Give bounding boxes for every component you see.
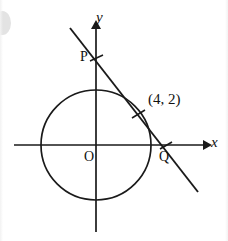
x-axis-label: x xyxy=(211,135,218,150)
point-q-label: Q xyxy=(159,150,169,164)
right-edge-shade xyxy=(225,0,228,241)
tangent-point-coordinate-label: (4, 2) xyxy=(148,92,181,107)
geometry-figure: y x P Q O (4, 2) xyxy=(0,0,228,241)
origin-label: O xyxy=(84,150,94,164)
point-p-label: P xyxy=(80,50,88,64)
x-axis xyxy=(14,140,212,150)
tangent-line xyxy=(70,28,198,192)
y-axis-label: y xyxy=(96,10,103,25)
diagram-canvas xyxy=(0,0,228,241)
left-edge-shade xyxy=(0,0,3,241)
